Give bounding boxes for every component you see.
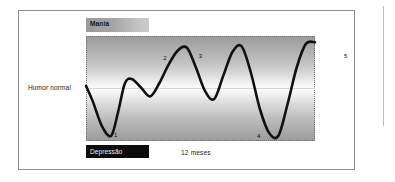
baseline-label: Humor normal: [28, 84, 71, 91]
episode-marker-3: 3: [195, 53, 205, 59]
mania-band-label: Mania: [90, 20, 109, 27]
episode-marker-2: 2: [160, 55, 170, 61]
episode-marker-4: 4: [254, 133, 264, 139]
page-edge-line: [383, 6, 384, 126]
time-axis-caption: 12 meses: [181, 149, 211, 156]
episode-marker-5: 5: [341, 53, 351, 59]
mood-curve-svg: [86, 36, 315, 141]
mania-band: Mania: [86, 18, 149, 32]
depression-band: Depressão: [86, 145, 149, 158]
mood-chart-plot-area: 123456: [86, 36, 315, 141]
episode-marker-1: 1: [111, 132, 121, 138]
depression-band-label: Depressão: [90, 148, 122, 155]
